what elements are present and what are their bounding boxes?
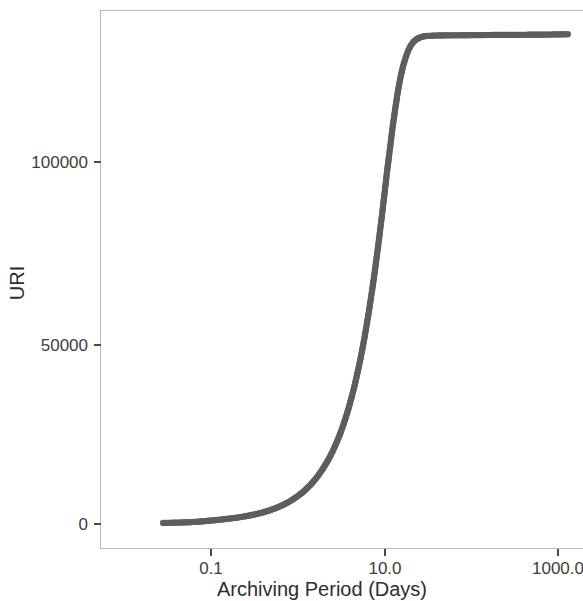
y-tick-label-50000: 50000	[41, 336, 88, 355]
data-point	[565, 31, 571, 37]
y-tick-label-0: 0	[79, 515, 88, 534]
scatter-plot-canvas: 100000 50000 0 0.1 10.0 1000.0 Archiving…	[0, 0, 583, 601]
plot-background	[0, 0, 583, 601]
x-axis-title: Archiving Period (Days)	[217, 578, 427, 600]
x-tick-label-1000.0: 1000.0	[532, 559, 583, 578]
x-tick-label-10.0: 10.0	[368, 559, 401, 578]
y-axis-title: URI	[6, 266, 28, 300]
x-tick-label-0.1: 0.1	[199, 559, 223, 578]
y-tick-label-100000: 100000	[31, 153, 88, 172]
chart-figure: 100000 50000 0 0.1 10.0 1000.0 Archiving…	[0, 0, 583, 601]
